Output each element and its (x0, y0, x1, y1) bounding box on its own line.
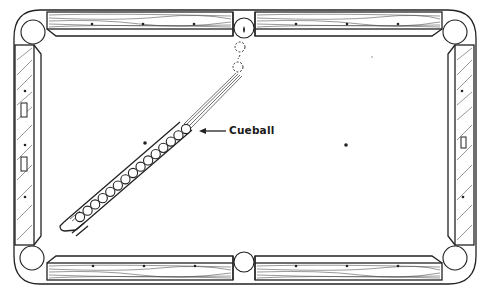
object-ball (166, 137, 175, 146)
object-ball (98, 194, 107, 203)
pocket-bottom-left (20, 246, 44, 270)
pool-table-diagram (0, 0, 487, 294)
pocket-bottom-right (443, 246, 467, 270)
object-ball (91, 200, 100, 209)
left-rail-diamond-marker (21, 103, 27, 117)
object-ball (144, 156, 153, 165)
bottom-right-rail (255, 256, 442, 280)
pockets (20, 12, 467, 280)
cueball-pointer-arrow (199, 128, 226, 134)
object-ball (136, 162, 145, 171)
ghost-ball-path (233, 42, 245, 72)
object-ball (151, 150, 160, 159)
object-ball (75, 212, 84, 221)
rail-sights (24, 23, 465, 268)
pocket-top-right (443, 20, 467, 44)
object-ball (128, 168, 137, 177)
cue-ball (181, 124, 190, 133)
table-outer-frame (14, 10, 476, 284)
pocket-top-left (21, 20, 45, 44)
object-ball (121, 175, 130, 184)
top-right-rail (255, 12, 442, 36)
object-ball (106, 187, 115, 196)
head-spot (143, 141, 147, 145)
object-ball (83, 206, 92, 215)
faint-spot (371, 56, 373, 58)
top-left-rail (47, 12, 233, 36)
object-ball (113, 181, 122, 190)
cueball-label: Cueball (229, 124, 275, 136)
left-rail-diamond-marker (21, 157, 27, 171)
pocket-bottom-center (234, 252, 254, 272)
right-rail-marker (461, 137, 466, 148)
object-ball (159, 143, 168, 152)
bottom-left-rail (47, 256, 233, 280)
ball-row (75, 124, 190, 221)
object-ball (174, 131, 183, 140)
right-rail (448, 45, 474, 245)
left-rail (15, 45, 41, 245)
foot-spot (344, 143, 348, 147)
